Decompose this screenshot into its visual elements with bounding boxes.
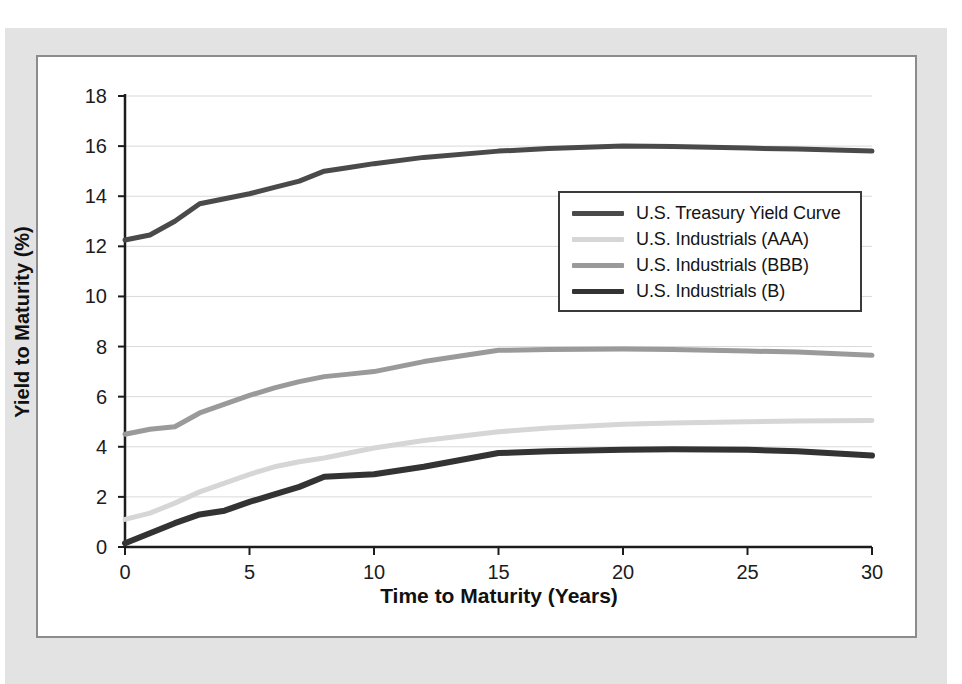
legend-label: U.S. Treasury Yield Curve bbox=[636, 203, 841, 224]
legend-label: U.S. Industrials (B) bbox=[636, 281, 785, 302]
y-tick-label: 18 bbox=[57, 85, 107, 108]
x-tick-label: 0 bbox=[119, 561, 130, 584]
y-tick-label: 12 bbox=[57, 235, 107, 258]
chart-panel bbox=[36, 55, 917, 638]
x-tick-label: 30 bbox=[861, 561, 883, 584]
x-axis-title: Time to Maturity (Years) bbox=[380, 584, 618, 608]
x-tick-label: 25 bbox=[736, 561, 758, 584]
legend-item: U.S. Industrials (B) bbox=[572, 278, 850, 304]
y-axis-title: Yield to Maturity (%) bbox=[11, 226, 34, 417]
legend-swatch-icon bbox=[572, 263, 624, 268]
figure-root: 181614121086420 051015202530 Yield to Ma… bbox=[0, 0, 962, 684]
y-tick-label: 10 bbox=[57, 285, 107, 308]
legend-swatch-icon bbox=[572, 211, 624, 216]
legend-item: U.S. Treasury Yield Curve bbox=[572, 200, 850, 226]
x-tick-label: 20 bbox=[612, 561, 634, 584]
x-tick-label: 5 bbox=[244, 561, 255, 584]
chart-legend: U.S. Treasury Yield CurveU.S. Industrial… bbox=[558, 191, 862, 312]
legend-swatch-icon bbox=[572, 289, 624, 294]
legend-item: U.S. Industrials (BBB) bbox=[572, 252, 850, 278]
x-tick-label: 10 bbox=[363, 561, 385, 584]
legend-label: U.S. Industrials (BBB) bbox=[636, 255, 809, 276]
y-tick-label: 6 bbox=[57, 385, 107, 408]
y-tick-label: 16 bbox=[57, 135, 107, 158]
y-tick-label: 8 bbox=[57, 335, 107, 358]
y-tick-label: 14 bbox=[57, 185, 107, 208]
legend-label: U.S. Industrials (AAA) bbox=[636, 229, 809, 250]
legend-swatch-icon bbox=[572, 237, 624, 242]
x-tick-label: 15 bbox=[487, 561, 509, 584]
y-tick-label: 4 bbox=[57, 435, 107, 458]
legend-item: U.S. Industrials (AAA) bbox=[572, 226, 850, 252]
y-tick-label: 2 bbox=[57, 485, 107, 508]
y-tick-label: 0 bbox=[57, 536, 107, 559]
